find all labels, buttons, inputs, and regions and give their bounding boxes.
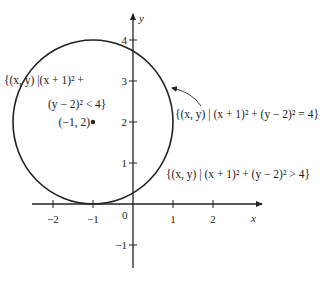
x-axis-label: x — [250, 212, 256, 224]
exterior-set-label: {(x, y) | (x + 1)² + (y − 2)² > 4} — [166, 168, 310, 181]
circle-region-diagram: −2−112 −11234 x y 0 (−1, 2) {(x, y) |(x … — [0, 0, 335, 284]
boundary-pointer-arrow — [172, 88, 201, 106]
y-tick-label: 4 — [122, 34, 128, 46]
boundary-set-label: {(x, y) | (x + 1)² + (y − 2)² = 4} — [175, 108, 319, 121]
center-point-label: (−1, 2) — [59, 116, 91, 129]
origin-label: 0 — [122, 209, 128, 221]
y-tick-label: −1 — [115, 239, 127, 251]
y-axis-label: y — [138, 12, 144, 24]
x-tick-label: 2 — [210, 213, 216, 225]
axes: −2−112 −11234 x y 0 — [32, 12, 262, 268]
interior-set-label-line2: (y − 2)² < 4} — [48, 98, 106, 111]
x-tick-label: 1 — [170, 213, 176, 225]
x-tick-label: −1 — [87, 213, 99, 225]
y-tick-label: 1 — [122, 157, 128, 169]
x-tick-label: −2 — [47, 213, 59, 225]
interior-set-label-line1: {(x, y) |(x + 1)² + — [4, 74, 84, 87]
y-tick-label: 2 — [122, 116, 128, 128]
y-tick-label: 3 — [122, 75, 128, 87]
center-point-marker — [91, 120, 95, 124]
